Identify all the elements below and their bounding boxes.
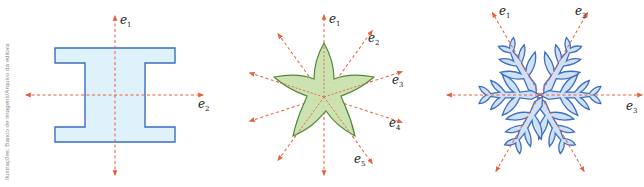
label-e2: e2: [368, 31, 380, 47]
label-e3: e3: [626, 99, 638, 115]
symmetry-axes-diagram: e1 e2 e1 e2 e3 e4 e5: [0, 0, 644, 187]
label-e3: e3: [392, 73, 404, 89]
label-e2: e2: [575, 4, 587, 20]
label-e2: e2: [198, 97, 210, 113]
label-e1: e1: [499, 4, 511, 20]
snowflake-figure: e1 e2 e3: [447, 4, 642, 171]
label-e5: e5: [354, 152, 366, 168]
label-e4: e4: [389, 116, 401, 132]
star-figure: e1 e2 e3 e4 e5: [250, 12, 404, 175]
label-e1: e1: [120, 13, 132, 29]
i-beam-figure: e1 e2: [26, 13, 210, 175]
snowflake-shape: [479, 32, 601, 160]
label-e1: e1: [329, 12, 341, 28]
